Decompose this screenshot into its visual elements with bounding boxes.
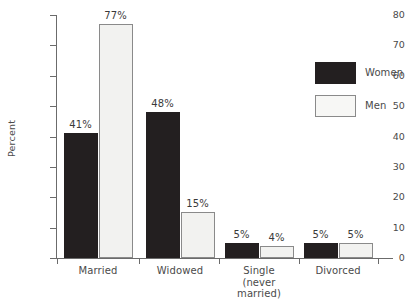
legend-swatch-men <box>315 95 356 117</box>
bar-value-label: 4% <box>268 233 284 243</box>
bar-group-item: 5% <box>339 15 373 258</box>
bar-chart: Percent 80706050403020100 41%77%48%15%5%… <box>0 0 405 308</box>
bar-men-1 <box>181 212 215 258</box>
bar-men-2 <box>260 246 294 258</box>
bar-value-label: 77% <box>104 11 127 21</box>
legend-label-women: Women <box>365 68 403 78</box>
x-tick-mark <box>299 259 300 264</box>
bar-women-1 <box>146 112 180 258</box>
bar-group-item: 15% <box>181 15 215 258</box>
legend-label-men: Men <box>365 101 386 111</box>
bar-group-item: 5% <box>304 15 338 258</box>
bar-value-label: 48% <box>151 99 174 109</box>
bar-group-item: 48% <box>146 15 180 258</box>
category-label-1: Widowed <box>157 265 203 277</box>
bar-men-0 <box>99 24 133 258</box>
x-axis-line <box>56 258 393 259</box>
bar-group-item: 4% <box>260 15 294 258</box>
bar-value-label: 15% <box>186 199 209 209</box>
legend-swatch-women <box>315 62 356 84</box>
bar-group-item: 41% <box>64 15 98 258</box>
bar-group-item: 5% <box>225 15 259 258</box>
bar-women-2 <box>225 243 259 258</box>
category-label-0: Married <box>79 265 118 277</box>
bar-group-item: 77% <box>99 15 133 258</box>
y-tick-mark <box>50 258 56 259</box>
x-tick-mark <box>57 259 58 264</box>
bar-men-3 <box>339 243 373 258</box>
bar-women-3 <box>304 243 338 258</box>
bar-value-label: 5% <box>312 230 328 240</box>
x-tick-mark <box>378 259 379 264</box>
bar-value-label: 5% <box>347 230 363 240</box>
category-label-2: Single (never married) <box>237 265 281 300</box>
plot-area: 41%77%48%15%5%4%5%5% <box>0 0 405 258</box>
bar-women-0 <box>64 133 98 258</box>
x-tick-mark <box>219 259 220 264</box>
x-tick-mark <box>139 259 140 264</box>
bar-value-label: 41% <box>69 120 92 130</box>
bar-value-label: 5% <box>233 230 249 240</box>
category-label-3: Divorced <box>315 265 360 277</box>
